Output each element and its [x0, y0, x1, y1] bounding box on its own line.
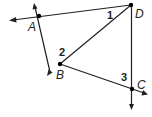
- label-c: C: [137, 78, 146, 92]
- arrow-down-left-icon: [47, 70, 53, 77]
- label-d: D: [135, 7, 144, 21]
- geometry-diagram: D A B C 1 2 3: [0, 0, 152, 117]
- angle-3-label: 3: [121, 71, 127, 83]
- arrow-up-icon: [33, 3, 38, 10]
- arrow-down-icon: [129, 104, 134, 110]
- point-d: [129, 3, 133, 7]
- angle-1-label: 1: [107, 9, 113, 21]
- label-b: B: [56, 68, 64, 82]
- point-c: [130, 87, 134, 91]
- line-da: [13, 5, 131, 20]
- point-a: [37, 14, 41, 18]
- angle-2-label: 2: [59, 46, 65, 58]
- arrow-left-icon: [9, 17, 17, 23]
- line-bd: [60, 5, 131, 64]
- label-a: A: [27, 20, 36, 34]
- point-b: [58, 62, 62, 66]
